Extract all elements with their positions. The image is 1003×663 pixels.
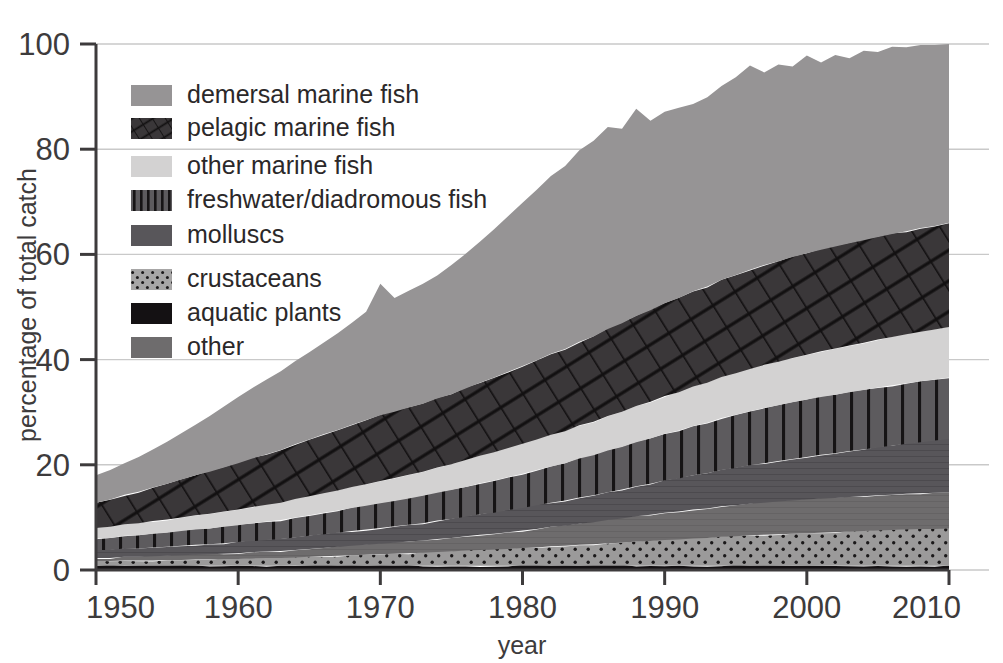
- x-tick-label: 1950: [86, 590, 155, 625]
- legend-swatch: [131, 118, 172, 139]
- legend-item-molluscs: molluscs: [131, 220, 284, 248]
- legend-swatch: [131, 190, 172, 211]
- legend-swatch: [131, 85, 172, 106]
- stacked-area-chart: 020406080100 195019601970198019902000201…: [0, 0, 1003, 663]
- y-tick-label: 100: [18, 27, 70, 62]
- legend-item-aquatic-plants: aquatic plants: [131, 298, 341, 326]
- x-tick-label: 1990: [630, 590, 699, 625]
- x-tick-label: 1970: [346, 590, 415, 625]
- y-tick-label: 0: [53, 553, 70, 588]
- legend-label: molluscs: [187, 220, 284, 248]
- legend-label: demersal marine fish: [187, 80, 419, 108]
- legend-label: pelagic marine fish: [187, 113, 395, 141]
- legend-swatch: [131, 337, 172, 358]
- chart-page: 020406080100 195019601970198019902000201…: [0, 0, 1003, 663]
- legend-item-pelagic-marine-fish: pelagic marine fish: [131, 113, 395, 141]
- legend-item-crustaceans: crustaceans: [131, 264, 322, 292]
- legend-swatch: [131, 156, 172, 177]
- x-tick-label: 1960: [204, 590, 273, 625]
- legend-swatch: [131, 225, 172, 246]
- legend-swatch: [131, 269, 172, 290]
- legend-item-other-marine-fish: other marine fish: [131, 151, 373, 179]
- legend-label: crustaceans: [187, 264, 322, 292]
- y-tick-label: 20: [36, 448, 70, 483]
- legend-label: other marine fish: [187, 151, 373, 179]
- legend-label: freshwater/diadromous fish: [187, 185, 487, 213]
- legend-swatch: [131, 303, 172, 324]
- y-axis-title: percentage of total catch: [13, 168, 41, 442]
- x-tick-label: 2000: [772, 590, 841, 625]
- legend-label: other: [187, 332, 244, 360]
- legend-item-demersal-marine-fish: demersal marine fish: [131, 80, 419, 108]
- x-tick-label: 1980: [488, 590, 557, 625]
- x-tick-label: 2010: [892, 590, 961, 625]
- x-axis-title: year: [498, 631, 547, 659]
- x-tick-labels: 1950196019701980199020002010: [86, 590, 961, 625]
- y-tick-label: 80: [36, 132, 70, 167]
- legend-item-freshwater-diadromous-fish: freshwater/diadromous fish: [131, 185, 487, 213]
- legend-item-other: other: [131, 332, 244, 360]
- legend-label: aquatic plants: [187, 298, 341, 326]
